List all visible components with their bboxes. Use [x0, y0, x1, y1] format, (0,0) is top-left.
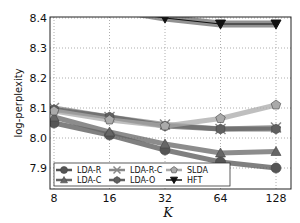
- y-tick-label: 8.3: [30, 42, 48, 55]
- svg-text:HFT: HFT: [187, 176, 202, 185]
- svg-text:LDA-R: LDA-R: [77, 166, 102, 175]
- x-axis-label: K: [162, 205, 174, 220]
- svg-text:LDA-C: LDA-C: [77, 176, 102, 185]
- y-tick-label: 7.9: [30, 162, 48, 175]
- svg-text:LDA-R-C: LDA-R-C: [130, 166, 163, 175]
- y-tick-label: 8.0: [30, 132, 48, 145]
- y-tick-label: 8.2: [30, 72, 48, 85]
- line-chart: 7.98.08.18.28.38.4 8163264128 log-perple…: [0, 0, 300, 223]
- x-tick-label: 16: [103, 192, 117, 205]
- x-tick-label: 128: [266, 192, 287, 205]
- y-axis-ticks: 7.98.08.18.28.38.4: [30, 12, 48, 175]
- legend: LDA-RLDA-CLDA-R-CLDA-OSLDAHFT: [54, 163, 230, 186]
- y-tick-label: 8.1: [30, 102, 48, 115]
- svg-text:LDA-O: LDA-O: [130, 176, 155, 185]
- x-tick-label: 64: [214, 192, 228, 205]
- series-hft: [49, 0, 281, 29]
- x-tick-label: 8: [51, 192, 58, 205]
- y-axis-label: log-perplexity: [13, 68, 24, 137]
- y-tick-label: 8.4: [30, 12, 48, 25]
- x-axis-ticks: 8163264128: [51, 192, 287, 205]
- x-tick-label: 32: [158, 192, 172, 205]
- svg-text:SLDA: SLDA: [187, 166, 209, 175]
